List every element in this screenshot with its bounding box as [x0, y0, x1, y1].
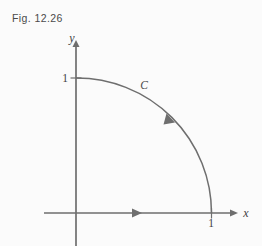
- figure-plot: y x 1 1 C: [0, 0, 262, 246]
- x-axis-direction-arrow-icon: [132, 209, 142, 218]
- x-tick-label-1: 1: [208, 217, 214, 229]
- curve-c-arc: [76, 78, 212, 213]
- y-tick-label-1: 1: [62, 72, 68, 84]
- x-axis-label: x: [242, 206, 249, 220]
- x-axis-tip-arrow-icon: [230, 209, 238, 216]
- figure-container: Fig. 12.26 y x 1 1 C: [0, 0, 262, 246]
- y-axis-label: y: [68, 31, 75, 45]
- curve-label-c: C: [140, 79, 148, 91]
